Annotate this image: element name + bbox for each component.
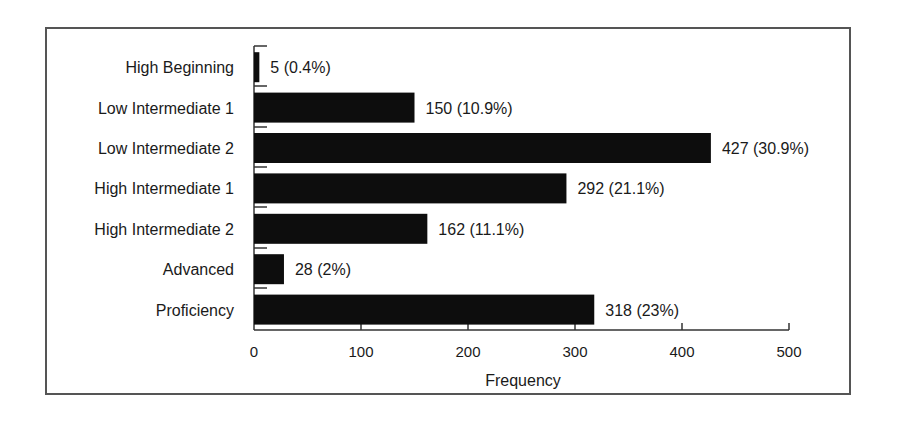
value-label: 5 (0.4%) bbox=[270, 59, 330, 76]
value-label: 292 (21.1%) bbox=[577, 180, 664, 197]
bar bbox=[254, 93, 415, 123]
bar bbox=[254, 214, 427, 244]
x-axis-title: Frequency bbox=[485, 372, 561, 389]
bar-chart: High BeginningLow Intermediate 1Low Inte… bbox=[0, 0, 897, 423]
category-labels: High BeginningLow Intermediate 1Low Inte… bbox=[94, 59, 234, 318]
category-label: High Beginning bbox=[125, 59, 234, 76]
x-tick-label: 500 bbox=[776, 343, 801, 360]
x-tick-labels: 0100200300400500 bbox=[250, 343, 802, 360]
x-tick-label: 400 bbox=[669, 343, 694, 360]
bar bbox=[254, 173, 566, 203]
value-label: 162 (11.1%) bbox=[438, 221, 524, 238]
category-label: Low Intermediate 2 bbox=[98, 140, 234, 157]
x-tick-label: 0 bbox=[250, 343, 258, 360]
bar bbox=[254, 133, 711, 163]
value-label: 28 (2%) bbox=[295, 261, 351, 278]
bar bbox=[254, 52, 259, 82]
value-label: 318 (23%) bbox=[605, 302, 679, 319]
y-ticks bbox=[254, 46, 267, 288]
bar bbox=[254, 254, 284, 284]
category-label: High Intermediate 2 bbox=[94, 221, 234, 238]
value-label: 150 (10.9%) bbox=[426, 100, 513, 117]
category-label: Proficiency bbox=[156, 302, 234, 319]
x-tick-label: 300 bbox=[562, 343, 587, 360]
category-label: Low Intermediate 1 bbox=[98, 100, 234, 117]
x-tick-label: 100 bbox=[348, 343, 373, 360]
category-label: Advanced bbox=[163, 261, 234, 278]
x-tick-label: 200 bbox=[455, 343, 480, 360]
bar bbox=[254, 295, 594, 325]
category-label: High Intermediate 1 bbox=[94, 180, 234, 197]
value-label: 427 (30.9%) bbox=[722, 140, 809, 157]
